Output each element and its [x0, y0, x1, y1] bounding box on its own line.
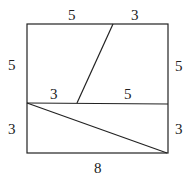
- label-left-upper: 5: [8, 57, 16, 73]
- label-top-right: 3: [131, 7, 139, 23]
- geometry-diagram: 5 3 5 5 3 5 3 3 8: [0, 0, 189, 182]
- slanted-segment: [77, 24, 113, 103]
- label-bottom: 8: [94, 160, 102, 176]
- label-mid-right: 5: [124, 86, 132, 102]
- outer-square: [27, 24, 168, 153]
- label-left-lower: 3: [8, 121, 16, 137]
- label-top-left: 5: [68, 7, 76, 23]
- horizontal-divider: [27, 103, 168, 104]
- label-mid-left: 3: [50, 86, 58, 102]
- label-right-upper: 5: [175, 58, 183, 74]
- label-right-lower: 3: [175, 121, 183, 137]
- diagonal-segment: [27, 103, 167, 153]
